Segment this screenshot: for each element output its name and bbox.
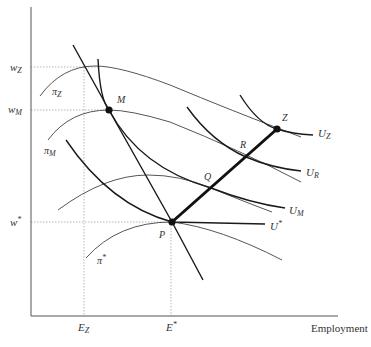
indifference-label-U-star-sub: * [278,219,282,228]
guide-lines [31,67,172,316]
wage-label-wstar-sub: * [17,215,21,224]
isoprofit-label-pi-M: πM [44,145,57,158]
indifference-label-U-M: UM [289,204,305,218]
indifference-curves [66,59,313,224]
isoprofit-label-pi-star-sub: * [102,253,106,262]
isoprofit-label-pi-star: π* [97,253,106,266]
labor-demand-curve [73,45,203,280]
indifference-label-U-Z-sub: Z [326,132,331,141]
point-label-Z: Z [282,112,288,123]
indifference-label-U-star: U* [270,219,282,232]
employment-label-Estar: E* [165,320,177,333]
point-label-Q: Q [204,171,212,182]
isoprofit-label-pi-M-sub: M [48,149,57,158]
wage-label-wM: wM [8,103,23,117]
indifference-label-U-R-sub: R [313,171,319,180]
isoprofit-label-pi-Z: πZ [52,86,62,99]
isoprofit-curve-pi-Q [58,175,272,212]
employment-label-EZ: EZ [77,321,90,335]
wage-label-wM-sub: M [14,108,23,117]
x-axis-title: Employment [311,322,368,334]
points [105,106,280,225]
indifference-label-U-M-sub: M [296,209,305,218]
point-label-R: R [239,139,246,150]
indifference-curve-U-M [98,59,285,208]
employment-label-EZ-sub: Z [85,326,90,335]
wage-label-wZ: wZ [10,61,22,75]
isoprofit-curve-pi-Z [40,66,301,137]
indifference-label-U-Z: UZ [318,127,331,141]
isoprofit-curve-pi-M [48,110,301,182]
indifference-label-U-R: UR [306,166,319,180]
bargaining-diagram: M P Q R Z wZ wM w* EZ E* Employment πZ π… [0,0,371,347]
wage-label-wstar: w* [10,215,21,228]
wage-label-wZ-sub: Z [17,66,22,75]
point-M-dot [105,106,112,113]
isoprofit-curve-pi-star [86,222,282,260]
employment-label-Estar-sub: * [173,320,177,329]
point-label-M: M [116,94,126,105]
point-label-P: P [158,229,165,240]
point-Z-dot [273,125,280,132]
isoprofit-label-pi-Z-sub: Z [57,90,62,99]
point-P-dot [168,218,175,225]
